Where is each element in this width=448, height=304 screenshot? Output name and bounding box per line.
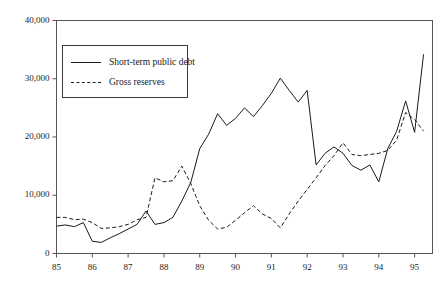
x-tick-label: 92 [295,263,319,272]
y-tick-label: 10,000 [25,190,50,199]
legend-swatch-dashed-line [71,82,101,83]
x-tick-label: 90 [224,263,248,272]
x-tick-label: 86 [80,263,104,272]
x-axis-ticks [57,254,415,258]
x-tick-label: 88 [152,263,176,272]
x-tick-label: 95 [403,263,427,272]
x-tick-label: 85 [45,263,69,272]
line-chart: 010,00020,00030,00040,000 85868788899091… [0,0,448,304]
x-tick-label: 89 [188,263,212,272]
x-tick-label: 87 [116,263,140,272]
series-line-gross-reserves [57,113,424,230]
y-tick-label: 30,000 [25,74,50,83]
x-tick-label: 93 [331,263,355,272]
x-tick-label: 91 [259,263,283,272]
legend-label-short-term-public-debt: Short-term public debt [109,57,195,67]
chart-legend: Short-term public debt Gross reserves [62,45,188,98]
legend-swatch-solid-line [71,62,101,63]
y-tick-label: 0 [45,249,50,258]
y-axis-ticks [53,21,57,254]
legend-entry-gross-reserves: Gross reserves [71,75,165,89]
legend-entry-short-term-public-debt: Short-term public debt [71,55,195,69]
y-tick-label: 20,000 [25,132,50,141]
y-tick-label: 40,000 [25,16,50,25]
x-tick-label: 94 [367,263,391,272]
legend-label-gross-reserves: Gross reserves [109,77,165,87]
